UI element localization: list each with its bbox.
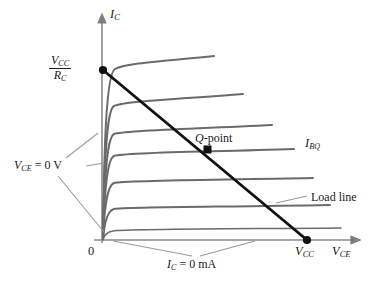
y-axis-label: IC: [110, 8, 120, 22]
q-point-marker: [204, 146, 212, 154]
load-line-x-intercept-dot: [303, 236, 311, 244]
ibq-label: IBQ: [305, 137, 320, 151]
leader-cutoff-left: [113, 241, 192, 256]
x-axis-label: VCE: [332, 245, 351, 259]
origin-label: 0: [88, 245, 94, 258]
load-line-y-intercept-dot: [99, 66, 107, 74]
y-intercept-label: VCC RC: [49, 54, 71, 84]
saturation-label: VCE = 0 V: [14, 159, 62, 173]
cutoff-label: IC = 0 mA: [167, 258, 216, 272]
curve-ib-1: [103, 205, 330, 239]
curve-ib-3-ibq: [103, 149, 294, 239]
load-line-label: Load line: [311, 191, 357, 203]
vcc-label: VCC: [295, 245, 314, 259]
leader-cutoff-right: [200, 241, 255, 256]
dc-load-line: [103, 70, 307, 240]
curve-ib-5: [103, 94, 243, 239]
leader-vce-lower: [58, 176, 104, 232]
leader-load-line: [276, 196, 307, 203]
characteristic-curves-figure: IC VCE 0 VCC RC VCE = 0 V Q-point IBQ Lo…: [0, 0, 368, 289]
q-point-label: Q-point: [195, 132, 232, 144]
leader-vce-upper: [66, 133, 98, 158]
